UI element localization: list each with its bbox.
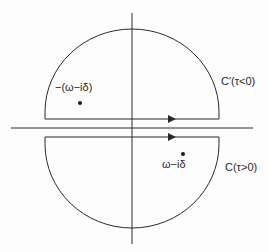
pole-upper-dot-icon bbox=[78, 101, 82, 105]
pole-lower-dot-icon bbox=[181, 152, 185, 156]
lower-contour-arrow-icon bbox=[168, 133, 176, 141]
contour-label-c-prime: C′(τ<0) bbox=[221, 76, 255, 87]
diagram-graphics bbox=[0, 0, 269, 252]
pole-label-lower: ω−iδ bbox=[162, 159, 186, 170]
pole-label-upper: −(ω−iδ) bbox=[55, 82, 92, 93]
contour-label-c: C(τ>0) bbox=[225, 162, 257, 173]
contour-diagram: C′(τ<0) C(τ>0) −(ω−iδ) ω−iδ bbox=[0, 0, 269, 252]
upper-contour-arrow-icon bbox=[168, 115, 176, 123]
